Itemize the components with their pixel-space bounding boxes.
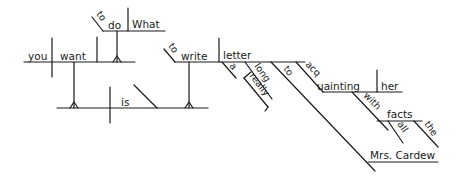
preposition-slash <box>271 62 375 171</box>
main-clause-is: is <box>57 62 208 123</box>
prepositional-phrase-with-all-the-facts: with facts all the <box>352 90 440 147</box>
bracket-tail <box>265 107 268 111</box>
word-the: the <box>422 119 440 138</box>
word-you: you <box>28 50 47 62</box>
word-what: What <box>132 18 160 30</box>
sentence-diagram: to do What you want is to write letter a <box>0 0 461 186</box>
word-to: to <box>94 9 109 23</box>
modifier-long-really: long really <box>244 61 273 111</box>
word-acquainting-prefix: acq <box>304 59 324 79</box>
subject-clause-you-want: you want <box>24 37 135 108</box>
word-write: write <box>181 50 207 62</box>
participial-phrase-acquainting-her: acq uainting her <box>296 59 402 92</box>
predicate-slash <box>134 85 157 108</box>
infinitive-clause-to-write-letter: to write letter <box>164 38 305 62</box>
word-facts: facts <box>387 108 413 120</box>
word-her: her <box>381 80 399 92</box>
word-to: to <box>166 41 181 55</box>
word-want: want <box>60 50 86 62</box>
word-acquainting: uainting <box>317 80 360 92</box>
prepositional-phrase-to-mrs-cardew: to Mrs. Cardew <box>271 62 438 171</box>
infinitive-clause-to-do-what: to do What <box>92 8 165 62</box>
modifier-a: a <box>222 60 240 78</box>
word-mrs-cardew: Mrs. Cardew <box>370 149 436 161</box>
word-letter: letter <box>223 49 252 61</box>
word-do: do <box>108 19 121 31</box>
word-with: with <box>362 90 384 112</box>
word-is: is <box>121 96 129 108</box>
